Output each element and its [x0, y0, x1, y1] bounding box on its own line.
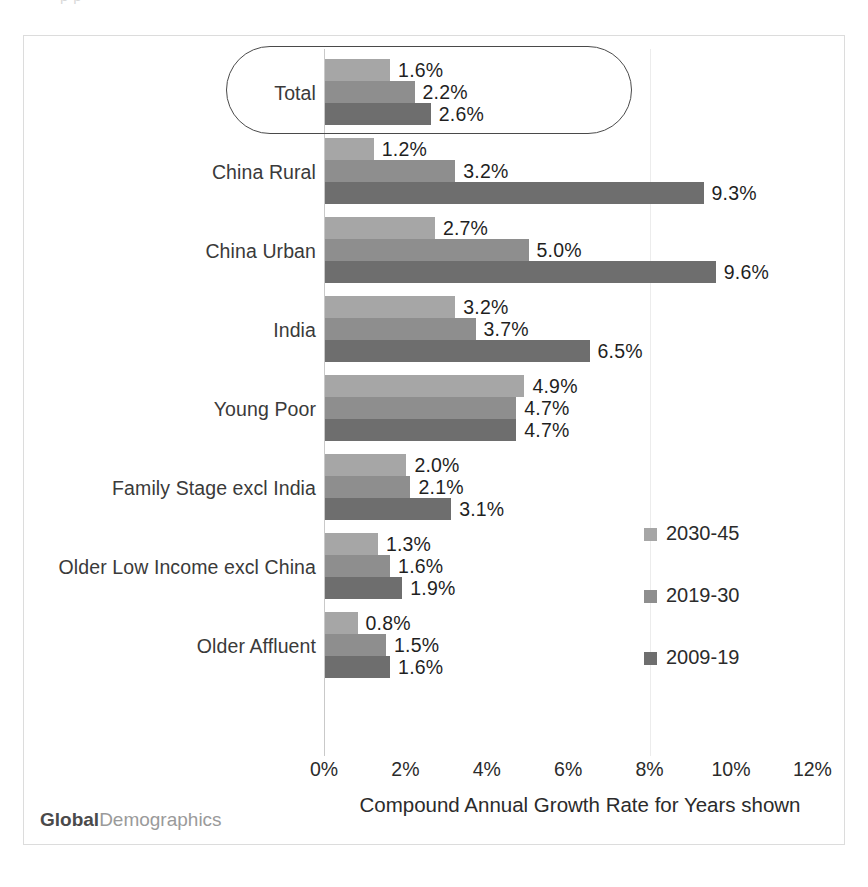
x-tick-label: 10%: [711, 758, 750, 781]
bar[interactable]: [325, 397, 516, 419]
bar[interactable]: [325, 318, 476, 340]
bar[interactable]: [325, 498, 451, 520]
top-cut-text: p p: [60, 0, 82, 4]
bar[interactable]: [325, 656, 390, 678]
bar[interactable]: [325, 296, 455, 318]
bar-value-label: 1.2%: [382, 138, 427, 161]
category-label: India: [273, 318, 316, 341]
bar-value-label: 1.6%: [398, 656, 443, 679]
x-tick-label: 2%: [391, 758, 419, 781]
bar-value-label: 3.2%: [463, 296, 508, 319]
legend: 2030-452019-302009-19: [644, 522, 834, 708]
bar-value-label: 3.1%: [459, 498, 504, 521]
category-label: Older Affluent: [197, 634, 316, 657]
legend-swatch-icon: [644, 590, 657, 603]
legend-label: 2009-19: [666, 646, 739, 669]
bar-value-label: 4.9%: [532, 375, 577, 398]
watermark-light: Demographics: [99, 809, 222, 830]
bar[interactable]: [325, 182, 704, 204]
bar-group: China Rural1.2%3.2%9.3%: [24, 132, 846, 211]
category-label: China Rural: [212, 160, 316, 183]
legend-item[interactable]: 2009-19: [644, 646, 834, 708]
bar-value-label: 4.7%: [524, 397, 569, 420]
x-axis-label: Compound Annual Growth Rate for Years sh…: [324, 793, 836, 817]
x-tick-label: 4%: [473, 758, 501, 781]
bar-value-label: 3.2%: [463, 160, 508, 183]
bar[interactable]: [325, 217, 435, 239]
bar[interactable]: [325, 239, 529, 261]
bar-value-label: 1.6%: [398, 59, 443, 82]
bar-value-label: 1.3%: [386, 533, 431, 556]
plot-area: Total1.6%2.2%2.6%China Rural1.2%3.2%9.3%…: [24, 36, 846, 846]
bar[interactable]: [325, 138, 374, 160]
bar[interactable]: [325, 375, 524, 397]
chart-frame: Total1.6%2.2%2.6%China Rural1.2%3.2%9.3%…: [23, 35, 845, 845]
bar-value-label: 3.7%: [484, 318, 529, 341]
x-axis-ticks: 0%2%4%6%8%10%12%: [24, 758, 846, 788]
bar-group: Family Stage excl India2.0%2.1%3.1%: [24, 448, 846, 527]
bar[interactable]: [325, 533, 378, 555]
bar-group: Total1.6%2.2%2.6%: [24, 53, 846, 132]
watermark: GlobalDemographics: [40, 809, 222, 831]
category-label: Older Low Income excl China: [59, 555, 316, 578]
bar[interactable]: [325, 476, 410, 498]
bar-value-label: 1.6%: [398, 555, 443, 578]
bar-value-label: 4.7%: [524, 419, 569, 442]
bar-value-label: 9.3%: [712, 182, 757, 205]
category-label: Total: [274, 81, 316, 104]
bar[interactable]: [325, 340, 590, 362]
category-label: China Urban: [205, 239, 316, 262]
watermark-bold: Global: [40, 809, 99, 830]
bar[interactable]: [325, 160, 455, 182]
category-label: Family Stage excl India: [112, 476, 316, 499]
bar-value-label: 1.9%: [410, 577, 455, 600]
bar[interactable]: [325, 612, 358, 634]
x-tick-label: 6%: [554, 758, 582, 781]
legend-item[interactable]: 2019-30: [644, 584, 834, 646]
bar-value-label: 2.0%: [414, 454, 459, 477]
x-tick-label: 8%: [636, 758, 664, 781]
bar[interactable]: [325, 81, 415, 103]
category-label: Young Poor: [214, 397, 316, 420]
bar[interactable]: [325, 419, 516, 441]
bar-value-label: 2.2%: [423, 81, 468, 104]
bar-value-label: 2.1%: [418, 476, 463, 499]
legend-swatch-icon: [644, 528, 657, 541]
x-tick-label: 0%: [310, 758, 338, 781]
bar-value-label: 2.6%: [439, 103, 484, 126]
bar[interactable]: [325, 59, 390, 81]
bar[interactable]: [325, 577, 402, 599]
legend-swatch-icon: [644, 652, 657, 665]
bar-value-label: 6.5%: [598, 340, 643, 363]
bar[interactable]: [325, 103, 431, 125]
bar-group: India3.2%3.7%6.5%: [24, 290, 846, 369]
bar-value-label: 0.8%: [366, 612, 411, 635]
legend-label: 2030-45: [666, 522, 739, 545]
bar-group: China Urban2.7%5.0%9.6%: [24, 211, 846, 290]
bar[interactable]: [325, 555, 390, 577]
bar-value-label: 9.6%: [724, 261, 769, 284]
bar-group: Young Poor4.9%4.7%4.7%: [24, 369, 846, 448]
top-cut-text-sliver: p p: [0, 0, 868, 12]
bar[interactable]: [325, 454, 406, 476]
bar[interactable]: [325, 261, 716, 283]
legend-item[interactable]: 2030-45: [644, 522, 834, 584]
bar-value-label: 1.5%: [394, 634, 439, 657]
x-tick-label: 12%: [793, 758, 832, 781]
bar-value-label: 2.7%: [443, 217, 488, 240]
bar[interactable]: [325, 634, 386, 656]
bar-value-label: 5.0%: [537, 239, 582, 262]
legend-label: 2019-30: [666, 584, 739, 607]
